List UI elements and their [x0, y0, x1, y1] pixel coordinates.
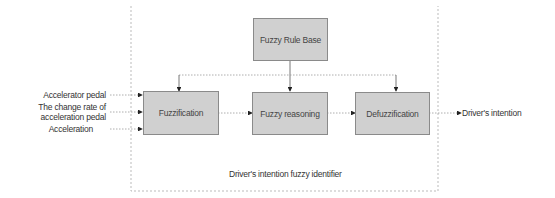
input-label-change-rate-2: acceleration pedal — [41, 112, 106, 122]
container-label: Driver's intention fuzzy identifier — [229, 169, 342, 179]
output-label: Driver's intention — [462, 108, 521, 118]
input-label-accelerator: Accelerator pedal — [43, 90, 106, 100]
node-fuzzification-label: Fuzzification — [159, 108, 204, 118]
node-fuzzification: Fuzzification — [143, 91, 219, 135]
node-rule-base: Fuzzy Rule Base — [253, 18, 328, 61]
node-reasoning: Fuzzy reasoning — [252, 92, 328, 135]
input-label-change-rate-1: The change rate of — [38, 102, 106, 112]
input-label-acceleration: Acceleration — [49, 124, 93, 134]
node-defuzzification-label: Defuzzification — [366, 109, 418, 119]
node-reasoning-label: Fuzzy reasoning — [260, 109, 319, 119]
node-rule-base-label: Fuzzy Rule Base — [260, 35, 321, 45]
node-defuzzification: Defuzzification — [355, 92, 430, 135]
